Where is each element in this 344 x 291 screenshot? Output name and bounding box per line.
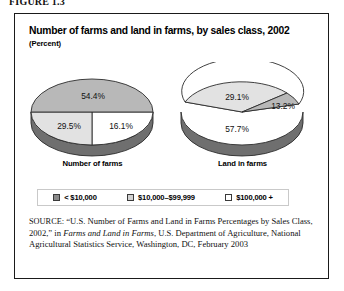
pie-right-caption: Land in farms xyxy=(175,159,310,168)
pie-left-caption: Number of farms xyxy=(25,159,160,168)
legend-item-under-10000: < $10,000 xyxy=(53,193,97,202)
light-gray-swatch-icon xyxy=(127,194,134,201)
pie-right-svg: 29.1% 13.2% 57.7% xyxy=(175,62,310,162)
legend-item-100000-plus: $100,000 + xyxy=(225,193,273,202)
pie-left-label-0: 54.4% xyxy=(81,91,105,101)
chart-subtitle: (Percent) xyxy=(29,39,61,48)
source-prefix: SOURCE xyxy=(29,217,62,226)
figure-frame: Number of farms and land in farms, by sa… xyxy=(14,13,329,279)
pie-right-label-1: 29.1% xyxy=(225,92,249,102)
pie-right-label-2: 57.7% xyxy=(225,124,249,134)
page-title: Number of farms and land in farms, by sa… xyxy=(29,25,289,36)
legend-label-under-10000: < $10,000 xyxy=(64,193,97,202)
figure-label: FIGURE 1.3 xyxy=(9,0,65,7)
legend-label-100000-plus: $100,000 + xyxy=(236,193,273,202)
pie-left-label-1: 29.5% xyxy=(57,121,81,131)
pie-right-label-0: 13.2% xyxy=(271,101,295,111)
pie-left-svg: 54.4% 29.5% 16.1% xyxy=(25,62,160,162)
pie-left-label-2: 16.1% xyxy=(109,121,133,131)
source-publication: Farms and Land in Farms xyxy=(63,228,154,238)
legend-label-10000-99999: $10,000–$99,999 xyxy=(138,193,195,202)
chart-legend: < $10,000 $10,000–$99,999 $100,000 + xyxy=(37,189,289,206)
source-note: SOURCE: “U.S. Number of Farms and Land i… xyxy=(29,216,317,251)
pie-chart-number-of-farms: 54.4% 29.5% 16.1% Number of farms xyxy=(25,62,160,174)
pie-chart-land-in-farms: 29.1% 13.2% 57.7% Land in farms xyxy=(175,62,310,174)
legend-item-10000-99999: $10,000–$99,999 xyxy=(127,193,195,202)
dark-gray-swatch-icon xyxy=(53,194,60,201)
white-swatch-icon xyxy=(225,194,232,201)
